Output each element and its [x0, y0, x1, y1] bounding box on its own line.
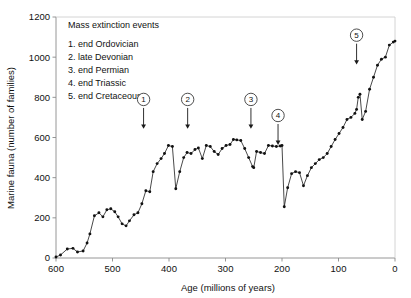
extinction-marker-number: 5 — [354, 31, 359, 40]
data-point — [121, 222, 124, 225]
data-point — [359, 93, 362, 96]
data-point — [357, 96, 360, 99]
data-point — [306, 174, 309, 177]
data-point — [163, 152, 166, 155]
data-point — [205, 144, 208, 147]
data-point — [174, 187, 177, 190]
data-point — [156, 162, 159, 165]
data-point — [86, 241, 89, 244]
data-point — [342, 126, 345, 129]
data-point — [338, 132, 341, 135]
data-point — [128, 219, 131, 222]
data-point — [286, 186, 289, 189]
data-point — [117, 215, 120, 218]
data-point — [384, 56, 387, 59]
x-tick-label: 200 — [274, 263, 290, 274]
data-point — [232, 138, 235, 141]
data-point — [190, 152, 193, 155]
data-point — [298, 171, 301, 174]
data-point — [221, 147, 224, 150]
data-point — [283, 205, 286, 208]
data-point — [76, 251, 79, 254]
data-point — [376, 64, 379, 67]
legend-item-2: 2. late Devonian — [68, 52, 133, 62]
data-point — [353, 112, 356, 115]
data-point — [82, 250, 85, 253]
y-tick-label: 1000 — [29, 52, 50, 63]
data-point — [88, 232, 91, 235]
data-point — [388, 44, 391, 47]
legend-item-5: 5. end Cretaceous — [68, 91, 142, 101]
data-point — [209, 145, 212, 148]
data-point — [160, 157, 163, 160]
legend-item-1: 1. end Ordovician — [68, 39, 139, 49]
data-point — [133, 213, 136, 216]
data-point — [72, 247, 75, 250]
data-point — [152, 170, 155, 173]
data-point — [171, 145, 174, 148]
x-tick-label: 0 — [392, 263, 397, 274]
data-point — [290, 172, 293, 175]
data-point — [109, 207, 112, 210]
data-point — [372, 76, 375, 79]
data-point — [136, 211, 139, 214]
data-point — [113, 210, 116, 213]
data-point — [259, 151, 262, 154]
y-tick-label: 800 — [34, 92, 50, 103]
chart-figure: 020040060080010001200 600500400300200100… — [0, 0, 411, 298]
data-point — [281, 144, 284, 147]
data-point — [101, 215, 104, 218]
data-point — [355, 108, 358, 111]
data-point — [167, 144, 170, 147]
data-point — [349, 116, 352, 119]
legend-item-3: 3. end Permian — [68, 65, 129, 75]
y-tick-label: 1200 — [29, 11, 50, 22]
data-point — [186, 151, 189, 154]
marine-fauna-extinction-chart: 020040060080010001200 600500400300200100… — [0, 0, 411, 298]
data-point — [235, 138, 238, 141]
extinction-marker-number: 1 — [141, 95, 146, 104]
data-point — [213, 150, 216, 153]
data-point — [66, 248, 69, 251]
data-point — [263, 152, 266, 155]
x-tick-label: 300 — [218, 263, 234, 274]
x-tick-label: 500 — [105, 263, 121, 274]
data-point — [105, 208, 108, 211]
data-point — [271, 144, 274, 147]
data-point — [267, 144, 270, 147]
extinction-marker-number: 3 — [249, 95, 254, 104]
data-point — [217, 153, 220, 156]
data-point — [394, 40, 397, 43]
data-point — [201, 157, 204, 160]
data-point — [368, 88, 371, 91]
data-point — [178, 170, 181, 173]
data-point — [229, 143, 232, 146]
y-axis-title: Marine fauna (number of families) — [5, 67, 16, 209]
data-point — [361, 118, 364, 121]
data-point — [243, 147, 246, 150]
data-point — [346, 118, 349, 121]
data-point — [194, 148, 197, 151]
data-point — [59, 254, 62, 257]
data-point — [239, 139, 242, 142]
data-point — [310, 166, 313, 169]
data-point — [294, 170, 297, 173]
x-tick-label: 100 — [331, 263, 347, 274]
data-point — [275, 145, 278, 148]
data-point — [302, 184, 305, 187]
y-tick-label: 0 — [45, 252, 50, 263]
x-tick-label: 400 — [161, 263, 177, 274]
data-point — [252, 166, 255, 169]
legend-item-4: 4. end Triassic — [68, 78, 127, 88]
data-point — [140, 202, 143, 205]
data-point — [144, 189, 147, 192]
data-point — [322, 156, 325, 159]
data-point — [148, 190, 151, 193]
data-point — [197, 146, 200, 149]
data-point — [255, 150, 258, 153]
data-point — [247, 156, 250, 159]
legend-heading: Mass extinction events — [68, 20, 160, 30]
data-point — [125, 224, 128, 227]
data-point — [55, 256, 58, 259]
data-point — [334, 138, 337, 141]
